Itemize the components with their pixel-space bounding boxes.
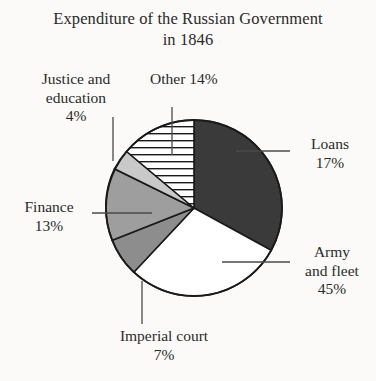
label-justice-and-education: Justice and education 4% — [28, 70, 124, 126]
label-loans: Loans 17% — [294, 135, 366, 172]
label-finance: Finance 13% — [6, 198, 92, 235]
label-army-value: 45% — [292, 280, 372, 299]
label-imperial-court: Imperial court 7% — [96, 327, 232, 364]
pie-chart-figure: Expenditure of the Russian Government in… — [0, 0, 376, 381]
label-finance-name: Finance — [24, 198, 73, 215]
label-army-and-fleet: Army and fleet 45% — [292, 243, 372, 299]
label-army-line1: Army — [314, 243, 350, 260]
label-justice-line2: education — [28, 89, 124, 108]
label-court-name: Imperial court — [120, 327, 208, 344]
label-other-text: Other 14% — [150, 70, 218, 87]
pie-graphic — [0, 0, 376, 381]
label-loans-name: Loans — [311, 135, 349, 152]
label-other: Other 14% — [150, 70, 260, 89]
label-justice-line1: Justice and — [42, 70, 110, 87]
label-army-line2: and fleet — [292, 262, 372, 281]
label-finance-value: 13% — [6, 217, 92, 236]
label-court-value: 7% — [96, 346, 232, 365]
label-justice-value: 4% — [28, 107, 124, 126]
label-loans-value: 17% — [294, 154, 366, 173]
